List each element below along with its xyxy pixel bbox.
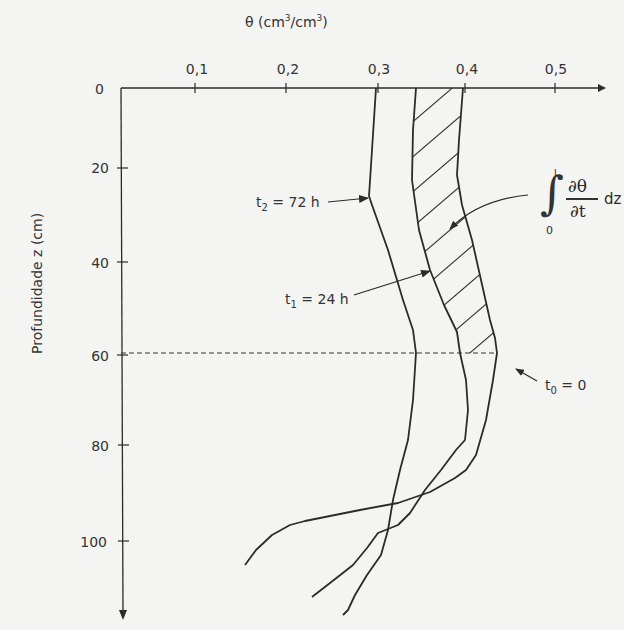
label-t2: t2 = 72 h (256, 195, 320, 213)
integral-differential: dz (604, 190, 621, 208)
arrow-t1 (354, 271, 430, 295)
x-axis-title: θ (cm3/cm3) (245, 14, 328, 29)
y-axis-title: Profundidade z (cm) (30, 213, 44, 354)
hatched-region (380, 30, 520, 500)
x-tick-label: 0,5 (545, 62, 567, 76)
y-tick-label: 60 (69, 349, 109, 363)
y-axis-arrow-icon (119, 610, 127, 620)
x-tick-label: 0,2 (277, 62, 299, 76)
y-tick-label: 100 (67, 535, 107, 549)
x-tick-label: 0,3 (368, 62, 390, 76)
fraction-bar (566, 198, 598, 200)
label-t1: t1 = 24 h (285, 292, 349, 310)
integral-lower-limit: 0 (546, 224, 553, 237)
y-tick-label: 80 (69, 439, 109, 453)
y-axis (121, 88, 123, 612)
x-tick-label: 0,1 (186, 62, 208, 76)
y-tick-label: 40 (69, 256, 109, 270)
x-tick-label: 0,4 (456, 62, 478, 76)
arrow-t2 (328, 198, 368, 202)
integral-upper-limit: L (554, 168, 559, 178)
y-tick-label: 0 (64, 82, 104, 96)
y-tick-label: 20 (69, 161, 109, 175)
integral-annotation: ∫ L 0 ∂θ ∂t dz (530, 168, 624, 238)
integral-numerator: ∂θ (568, 176, 587, 196)
x-axis-arrow-icon (598, 84, 606, 92)
label-t0: t0 = 0 (545, 378, 586, 396)
integral-sign: ∫ (540, 170, 564, 216)
curve-t2-72h (343, 88, 416, 615)
integral-denominator: ∂t (570, 201, 586, 221)
arrow-t0 (516, 369, 537, 381)
